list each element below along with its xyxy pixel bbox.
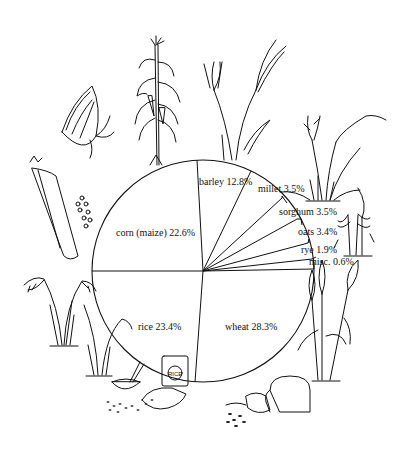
- corn-kernels-illustration: [76, 196, 92, 228]
- label-wheat: wheat 28.3%: [225, 321, 277, 332]
- label-misc: misc. 0.6%: [309, 256, 354, 267]
- label-corn: corn (maize) 22.6%: [116, 227, 195, 239]
- label-barley: barley 12.8%: [199, 176, 252, 187]
- wheat-grains-illustration: [226, 413, 246, 427]
- rice-bowl-illustration: [112, 362, 144, 389]
- spilled-rice-illustration: [107, 399, 154, 413]
- oats-illustration: [334, 188, 374, 256]
- corn-stalk-illustration: [135, 36, 180, 165]
- label-oats: oats 3.4%: [298, 226, 337, 237]
- label-rice: rice 23.4%: [138, 321, 181, 332]
- rice-bag-text: RICE: [168, 371, 182, 377]
- label-sorghum: sorghum 3.5%: [279, 206, 337, 217]
- bread-loaf-illustration: [226, 376, 310, 413]
- label-rye: rye 1.9%: [301, 244, 337, 255]
- grain-pie-chart: barley 12.8% millet 3.5% sorghum 3.5% oa…: [0, 0, 394, 455]
- barley-illustration: [204, 40, 286, 160]
